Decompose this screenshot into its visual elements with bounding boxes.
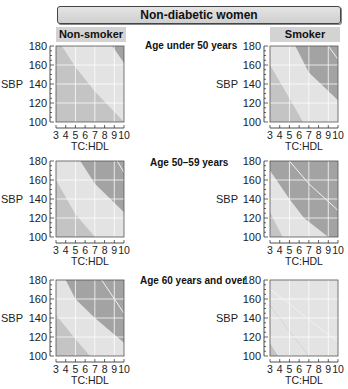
- y-axis-label: SBP: [216, 193, 238, 205]
- svg-text:9: 9: [111, 129, 117, 141]
- risk-chart-1: 180160140120100345678910TC:HDL: [230, 38, 346, 156]
- svg-text:TC:HDL: TC:HDL: [285, 374, 323, 386]
- risk-chart-5: 180160140120100345678910TC:HDL: [230, 272, 346, 389]
- risk-chart-2: 180160140120100345678910TC:HDL: [16, 153, 132, 271]
- svg-text:3: 3: [267, 363, 273, 375]
- svg-text:120: 120: [243, 212, 261, 224]
- svg-text:120: 120: [29, 331, 47, 343]
- svg-text:180: 180: [29, 274, 47, 286]
- svg-text:160: 160: [243, 293, 261, 305]
- svg-text:4: 4: [277, 244, 283, 256]
- svg-text:180: 180: [29, 155, 47, 167]
- risk-chart-3: 180160140120100345678910TC:HDL: [230, 153, 346, 271]
- y-axis-label: SBP: [1, 78, 23, 90]
- svg-text:180: 180: [243, 40, 261, 52]
- svg-text:100: 100: [29, 350, 47, 362]
- svg-text:9: 9: [325, 244, 331, 256]
- svg-text:100: 100: [243, 116, 261, 128]
- risk-chart-0: 180160140120100345678910TC:HDL: [16, 38, 132, 156]
- svg-text:100: 100: [29, 116, 47, 128]
- svg-text:120: 120: [243, 331, 261, 343]
- y-axis-label: SBP: [1, 312, 23, 324]
- svg-text:3: 3: [267, 244, 273, 256]
- svg-text:4: 4: [277, 363, 283, 375]
- svg-text:3: 3: [53, 363, 59, 375]
- svg-text:9: 9: [325, 363, 331, 375]
- svg-text:9: 9: [111, 244, 117, 256]
- svg-text:10: 10: [118, 244, 130, 256]
- svg-text:140: 140: [29, 312, 47, 324]
- row-label-50-59: Age 50–59 years: [150, 157, 228, 168]
- svg-text:3: 3: [53, 129, 59, 141]
- svg-text:140: 140: [29, 78, 47, 90]
- y-axis-label: SBP: [216, 312, 238, 324]
- svg-text:160: 160: [243, 59, 261, 71]
- svg-text:4: 4: [277, 129, 283, 141]
- y-axis-label: SBP: [1, 193, 23, 205]
- svg-text:120: 120: [29, 212, 47, 224]
- risk-chart-4: 180160140120100345678910TC:HDL: [16, 272, 132, 389]
- svg-text:10: 10: [332, 363, 344, 375]
- svg-text:3: 3: [53, 244, 59, 256]
- svg-text:140: 140: [243, 78, 261, 90]
- svg-text:160: 160: [29, 174, 47, 186]
- svg-text:140: 140: [243, 312, 261, 324]
- svg-text:TC:HDL: TC:HDL: [285, 140, 323, 152]
- svg-text:4: 4: [63, 129, 69, 141]
- svg-text:100: 100: [29, 231, 47, 243]
- svg-text:180: 180: [243, 155, 261, 167]
- svg-text:TC:HDL: TC:HDL: [71, 140, 109, 152]
- svg-text:TC:HDL: TC:HDL: [285, 255, 323, 267]
- svg-text:9: 9: [325, 129, 331, 141]
- chart-title: Non-diabetic women: [140, 8, 257, 22]
- svg-text:160: 160: [29, 59, 47, 71]
- svg-text:180: 180: [243, 274, 261, 286]
- svg-text:10: 10: [118, 363, 130, 375]
- svg-text:120: 120: [243, 97, 261, 109]
- svg-text:3: 3: [267, 129, 273, 141]
- svg-text:9: 9: [111, 363, 117, 375]
- svg-text:TC:HDL: TC:HDL: [71, 255, 109, 267]
- y-axis-label: SBP: [216, 78, 238, 90]
- svg-text:100: 100: [243, 350, 261, 362]
- svg-text:4: 4: [63, 363, 69, 375]
- svg-text:160: 160: [29, 293, 47, 305]
- svg-text:10: 10: [332, 129, 344, 141]
- svg-text:120: 120: [29, 97, 47, 109]
- row-label-under-50: Age under 50 years: [145, 40, 237, 51]
- svg-text:140: 140: [243, 193, 261, 205]
- svg-text:4: 4: [63, 244, 69, 256]
- chart-title-banner: Non-diabetic women: [57, 6, 341, 24]
- svg-text:160: 160: [243, 174, 261, 186]
- svg-text:10: 10: [332, 244, 344, 256]
- svg-text:10: 10: [118, 129, 130, 141]
- svg-text:100: 100: [243, 231, 261, 243]
- svg-text:TC:HDL: TC:HDL: [71, 374, 109, 386]
- svg-text:140: 140: [29, 193, 47, 205]
- svg-text:180: 180: [29, 40, 47, 52]
